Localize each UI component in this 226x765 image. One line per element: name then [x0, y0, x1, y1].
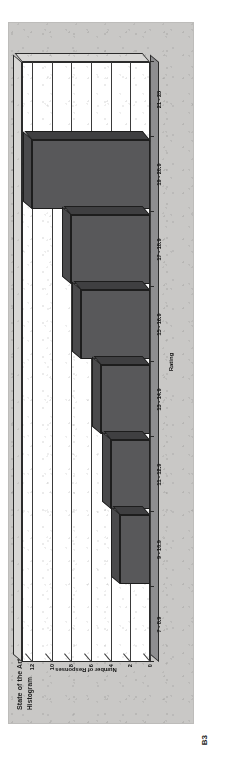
bar-side-face	[64, 206, 150, 215]
chart-title-block: State of the Art? Histogram	[16, 654, 34, 710]
x-tick	[150, 61, 154, 62]
bar	[32, 140, 150, 210]
chart-title: State of the Art?	[16, 654, 25, 710]
x-tick-label: 17 - 18.9	[156, 238, 162, 260]
x-tick	[150, 361, 154, 362]
histogram-figure: State of the Art? Histogram 024681012 Nu…	[8, 22, 194, 724]
x-tick-label: 11 - 12.9	[156, 464, 162, 486]
x-tick	[150, 661, 154, 662]
x-tick	[150, 511, 154, 512]
bar-front-face	[81, 290, 150, 360]
figure-container: State of the Art? Histogram 024681012 Nu…	[8, 22, 194, 724]
bar-front-face	[111, 440, 150, 510]
bar-top-face	[92, 357, 101, 434]
bar-front-face	[120, 515, 150, 585]
y-tick-label: 10	[49, 664, 55, 680]
y-axis-title: Number of Responses	[55, 667, 117, 673]
bar-side-face	[24, 131, 150, 140]
scanned-page: State of the Art? Histogram 024681012 Nu…	[0, 0, 226, 765]
bar-top-face	[23, 132, 32, 209]
bar-top-face	[111, 507, 120, 584]
bar	[81, 290, 150, 360]
x-tick-label: 7 - 8.9	[156, 617, 162, 633]
bar-top-face	[62, 207, 71, 284]
y-tick-label: 0	[147, 664, 153, 680]
bar-front-face	[71, 215, 150, 285]
x-axis-title: Rating	[168, 353, 174, 372]
bar-front-face	[32, 140, 150, 210]
bar-side-face	[74, 281, 150, 290]
bar	[120, 515, 150, 585]
x-tick-label: 9 - 10.9	[156, 540, 162, 559]
x-tick-label: 13 - 14.9	[156, 388, 162, 410]
x-tick-label: 21 - 23	[156, 91, 162, 108]
x-tick	[150, 586, 154, 587]
bar	[101, 365, 150, 435]
bar-front-face	[101, 365, 150, 435]
x-tick-label: 19 - 20.9	[156, 163, 162, 185]
x-tick	[150, 286, 154, 287]
chart-subtitle: Histogram	[26, 654, 34, 710]
bar	[111, 440, 150, 510]
bar-top-face	[102, 432, 111, 509]
y-tick-label: 12	[29, 664, 35, 680]
plot-floor	[150, 54, 159, 662]
x-tick-label: 15 - 16.9	[156, 313, 162, 335]
x-tick	[150, 436, 154, 437]
bar-side-face	[93, 356, 150, 365]
y-tick-label: 2	[127, 664, 133, 680]
x-tick	[150, 136, 154, 137]
gridline	[150, 62, 151, 662]
x-tick	[150, 211, 154, 212]
plot-right-face	[14, 53, 150, 62]
plot-top-face	[13, 54, 22, 662]
bar	[71, 215, 150, 285]
figure-caption: B3	[200, 735, 209, 745]
bar-top-face	[72, 282, 81, 359]
plot-area: 024681012 Number of Responses 7 - 8.99 -…	[22, 62, 150, 662]
